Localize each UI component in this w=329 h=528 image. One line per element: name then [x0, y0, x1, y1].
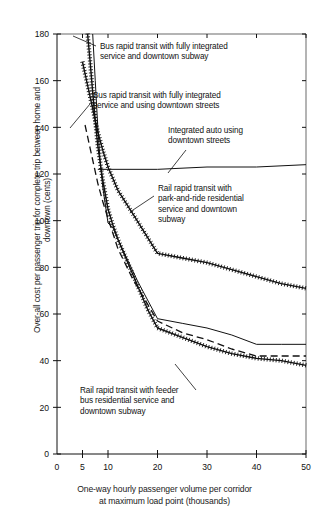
x-axis-title-line1: One-way hourly passenger volume per corr… [77, 484, 252, 494]
annotation-integrated-auto: Integrated auto using downtown streets [168, 126, 243, 147]
annotation-bus-rapid-subway: Bus rapid transit with fully integrated … [100, 42, 228, 63]
x-axis-title-line2: at maximum load point (thousands) [99, 496, 230, 506]
x-tick-label: 10 [103, 462, 113, 472]
series-2 [98, 165, 306, 170]
x-tick-label: 5 [80, 462, 85, 472]
x-tick-label: 20 [153, 462, 163, 472]
annotation-rail-feeder-bus: Rail rapid transit with feeder bus resid… [80, 386, 178, 417]
y-tick-label: 20 [39, 403, 49, 413]
y-tick-label: 40 [39, 356, 49, 366]
y-axis-title: Over-all cost per passenger trip for com… [32, 85, 52, 335]
x-tick-label: 30 [202, 462, 212, 472]
y-tick-label: 0 [44, 449, 49, 459]
x-axis-title: One-way hourly passenger volume per corr… [0, 484, 329, 507]
annotation-leader-2 [168, 150, 186, 173]
annotation-bus-rapid-streets: Bus rapid transit with fully integrated … [93, 91, 221, 112]
chart-figure: Over-all cost per passenger trip for com… [0, 0, 329, 528]
x-tick-label: 0 [55, 462, 60, 472]
annotation-leader-3 [130, 196, 154, 212]
x-tick-label: 40 [252, 462, 262, 472]
annotation-leader-1 [70, 104, 90, 128]
x-tick-label: 50 [301, 462, 311, 472]
annotation-rail-park-and-ride: Rail rapid transit with park-and-ride re… [158, 184, 244, 225]
y-tick-label: 180 [35, 29, 50, 39]
